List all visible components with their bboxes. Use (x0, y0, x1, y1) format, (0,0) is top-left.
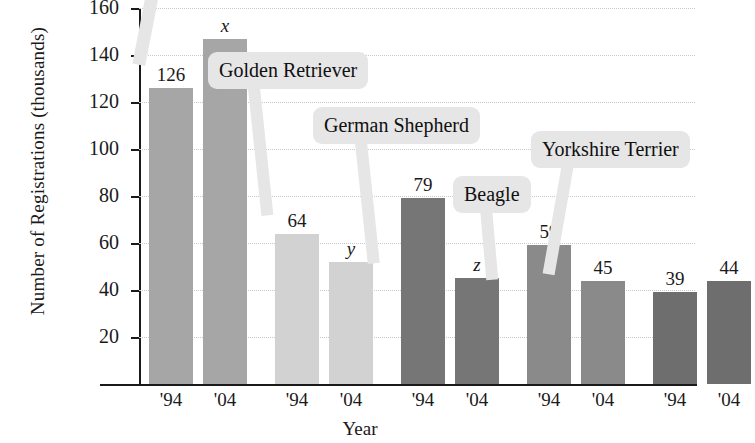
x-tick-label: '94 (141, 390, 201, 409)
x-tick-label: '94 (393, 390, 453, 409)
bar (401, 198, 445, 384)
breed-callout-label: Golden Retriever (208, 52, 368, 89)
breed-callout-label: German Shepherd (313, 107, 480, 144)
bar-value-label: 64 (265, 211, 329, 230)
bar (149, 88, 193, 384)
bar (329, 262, 373, 384)
x-tick-label: '04 (699, 390, 755, 409)
y-tick-mark (131, 196, 139, 198)
y-axis-title: Number of Registrations (thousands) (27, 11, 49, 331)
x-tick-label: '04 (195, 390, 255, 409)
y-tick-label: 40 (63, 279, 119, 299)
y-tick-label: 20 (63, 326, 119, 346)
y-tick-label: 80 (63, 185, 119, 205)
y-tick-mark (131, 102, 139, 104)
y-tick-label: 120 (63, 91, 119, 111)
bar (203, 39, 247, 384)
x-tick-label: '04 (447, 390, 507, 409)
y-tick-mark (131, 149, 139, 151)
x-tick-label: '04 (321, 390, 381, 409)
bar-value-label: 79 (391, 175, 455, 194)
bar (581, 281, 625, 384)
y-tick-label: 160 (63, 0, 119, 17)
x-tick-label: '04 (573, 390, 633, 409)
bar-value-label: 44 (697, 258, 755, 277)
y-tick-mark (131, 243, 139, 245)
breed-callout-label: Beagle (453, 176, 531, 213)
x-tick-label: '94 (519, 390, 579, 409)
x-axis-title: Year (100, 418, 620, 440)
x-axis-line (100, 384, 697, 386)
y-tick-mark (131, 337, 139, 339)
y-tick-mark (131, 8, 139, 10)
y-tick-label: 60 (63, 232, 119, 252)
x-tick-label: '94 (645, 390, 705, 409)
y-tick-label: 140 (63, 44, 119, 64)
y-tick-mark (131, 290, 139, 292)
y-tick-label: 100 (63, 138, 119, 158)
bar-value-label: z (445, 255, 509, 274)
bar (707, 281, 751, 384)
bar-value-label: 45 (571, 258, 635, 277)
gridline (139, 8, 695, 9)
bar (455, 278, 499, 384)
bar-value-label: 126 (139, 65, 203, 84)
x-tick-label: '94 (267, 390, 327, 409)
bar-value-label: x (193, 16, 257, 35)
bar (275, 234, 319, 384)
breed-callout-label: Yorkshire Terrier (531, 131, 690, 168)
bar (653, 292, 697, 384)
